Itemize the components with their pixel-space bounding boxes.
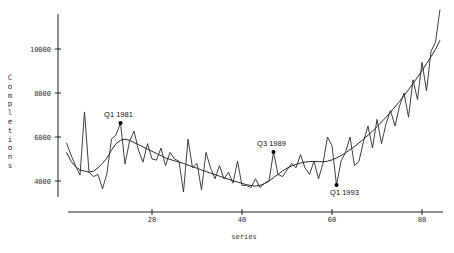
plot-area (67, 9, 441, 192)
annotations: Q1 1981Q3 1989Q1 1993 (104, 110, 359, 197)
y-title-char: n (8, 152, 13, 161)
line-chart: 40006000800010000 20406080 series Comple… (0, 0, 454, 253)
y-title-char: o (8, 143, 13, 152)
annotation-label: Q1 1981 (104, 110, 133, 119)
y-tick-label: 4000 (34, 178, 51, 186)
x-tick-label: 20 (148, 216, 156, 224)
y-title-char: s (8, 161, 13, 170)
y-tick-label: 6000 (34, 134, 51, 142)
annotation-marker (335, 183, 339, 187)
series-line-completions (67, 9, 441, 192)
annotation-label: Q3 1989 (257, 139, 286, 148)
x-axis-ticks: 20406080 (148, 209, 426, 224)
y-title-char: o (8, 82, 13, 91)
y-title-char: m (8, 91, 13, 100)
x-tick-label: 80 (418, 216, 426, 224)
y-title-char: C (8, 73, 13, 82)
y-axis-ticks: 40006000800010000 (30, 46, 61, 186)
annotation-marker (119, 121, 123, 125)
y-title-char: i (8, 135, 13, 144)
x-axis-title: series (231, 233, 256, 241)
y-title-char: e (8, 117, 13, 126)
x-tick-label: 60 (328, 216, 336, 224)
x-tick-label: 40 (238, 216, 246, 224)
y-title-char: l (8, 108, 13, 117)
y-tick-label: 8000 (34, 90, 51, 98)
y-title-char: p (8, 99, 13, 108)
annotation-marker (272, 150, 276, 154)
y-title-char: t (8, 126, 13, 135)
annotation-label: Q1 1993 (330, 188, 359, 197)
y-tick-label: 10000 (30, 46, 51, 54)
y-axis-title: Completions (8, 73, 13, 170)
